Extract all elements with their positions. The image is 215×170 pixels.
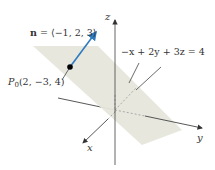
point-label: P0(2, −3, 4) [7, 76, 64, 89]
plane-normal-diagram: z y x n = ⟨−1, 2, 3⟩ P0(2, −3, 4) −x + 2… [0, 0, 215, 170]
plane-equation-label: −x + 2y + 3z = 4 [121, 46, 205, 57]
equation-leader-1 [129, 63, 139, 83]
normal-components: = ⟨−1, 2, 3⟩ [37, 27, 97, 38]
normal-vector-label: n = ⟨−1, 2, 3⟩ [30, 27, 97, 38]
y-axis-label: y [196, 132, 203, 143]
point-p0 [67, 64, 73, 70]
diagram-canvas: z y x n = ⟨−1, 2, 3⟩ P0(2, −3, 4) −x + 2… [0, 0, 215, 170]
point-coordinates: (2, −3, 4) [19, 76, 65, 87]
plane [33, 46, 182, 145]
equation-leader-2 [136, 67, 161, 90]
x-axis [83, 119, 108, 143]
z-axis-label: z [104, 11, 111, 22]
x-axis-label: x [87, 142, 93, 153]
